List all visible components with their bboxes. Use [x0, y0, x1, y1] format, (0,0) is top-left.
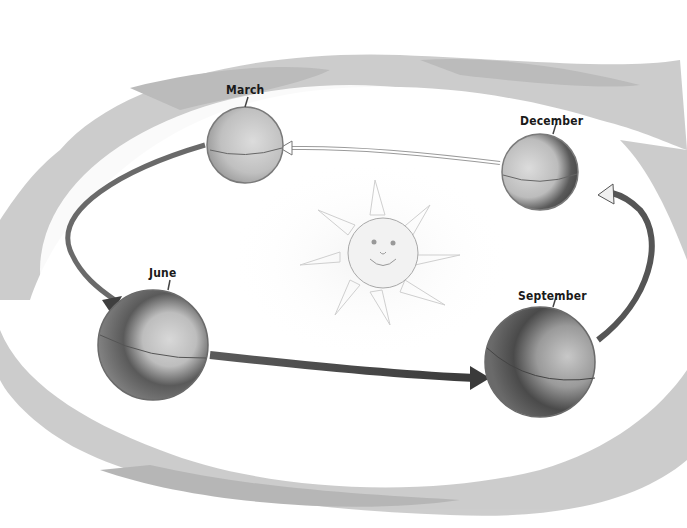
- label-june: June: [149, 266, 177, 280]
- orbit-illustration: [0, 0, 687, 528]
- label-december: December: [520, 114, 583, 128]
- label-september: September: [518, 289, 587, 303]
- label-march: March: [226, 83, 264, 97]
- orbit-diagram: March June September December: [0, 0, 687, 528]
